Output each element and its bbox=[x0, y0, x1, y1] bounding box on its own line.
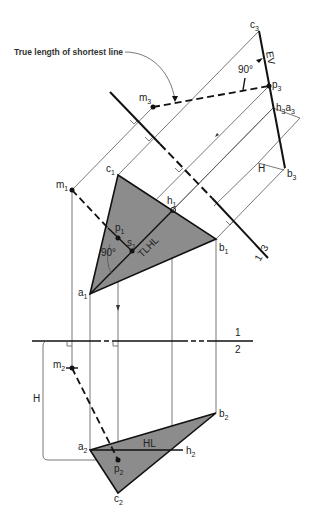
point-m3 bbox=[151, 105, 156, 110]
annotation-leader bbox=[125, 52, 175, 100]
descriptive-geometry-diagram: True length of shortest line c3 p3 h3a3 … bbox=[0, 0, 315, 529]
label-b1: b1 bbox=[219, 242, 229, 255]
label-b3: b3 bbox=[287, 168, 297, 181]
point-m1 bbox=[70, 188, 75, 193]
arrow-icon bbox=[172, 96, 178, 102]
label-h-bottom: H bbox=[33, 393, 40, 404]
arrow-icon bbox=[116, 305, 120, 311]
plane-view-2 bbox=[90, 413, 216, 493]
label-c2: c2 bbox=[114, 493, 123, 506]
label-angle-top: 90° bbox=[238, 64, 253, 75]
label-fold13-b: 3 bbox=[258, 242, 271, 253]
label-fold12-a: 1 bbox=[235, 327, 241, 338]
label-m2: m2 bbox=[53, 359, 65, 372]
angle-arc-top bbox=[243, 78, 245, 90]
label-hl: HL bbox=[143, 438, 156, 449]
label-c1: c1 bbox=[106, 163, 115, 176]
point-p1 bbox=[116, 236, 121, 241]
label-ev: EV bbox=[264, 50, 277, 65]
label-h2: h2 bbox=[186, 445, 196, 458]
label-a2: a2 bbox=[78, 441, 88, 454]
arrow-icon bbox=[256, 58, 263, 63]
label-b2: b2 bbox=[219, 408, 229, 421]
label-fold12-b: 2 bbox=[235, 344, 241, 355]
point-p2 bbox=[116, 458, 121, 463]
label-c3: c3 bbox=[250, 19, 259, 32]
h-dimension-top bbox=[214, 108, 300, 206]
label-angle-mid: 90° bbox=[101, 247, 116, 258]
label-a1: a1 bbox=[78, 287, 88, 300]
label-h1: h1 bbox=[167, 195, 177, 208]
point-p3 bbox=[267, 84, 272, 89]
label-m3: m3 bbox=[139, 92, 151, 105]
right-angle-markers-12 bbox=[67, 341, 118, 346]
label-m1: m1 bbox=[56, 179, 68, 192]
shortest-line-view1 bbox=[72, 190, 108, 228]
label-p3: p3 bbox=[272, 79, 282, 92]
label-h-top: H bbox=[258, 163, 265, 174]
annotation-text: True length of shortest line bbox=[14, 47, 123, 57]
